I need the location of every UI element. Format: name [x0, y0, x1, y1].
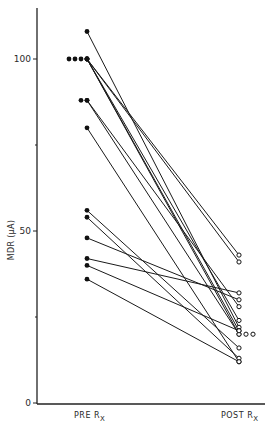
post-point	[237, 253, 241, 257]
post-point	[237, 305, 241, 309]
category-label-post-main: POST R	[221, 411, 253, 420]
pre-point-stacked	[73, 57, 78, 62]
subject-line	[87, 100, 239, 334]
post-point	[237, 360, 241, 364]
post-point	[237, 318, 241, 322]
subject-line	[87, 59, 239, 255]
pre-point	[85, 215, 90, 220]
category-label-pre-sub: X	[100, 415, 105, 423]
pre-point-stacked	[79, 98, 84, 103]
post-point	[237, 329, 241, 333]
post-point-stacked	[251, 332, 255, 336]
pre-point	[85, 263, 90, 268]
connector-lines	[87, 31, 239, 361]
pre-point-stacked	[67, 57, 72, 62]
y-tick-label: 0	[25, 398, 31, 408]
data-points	[67, 29, 256, 364]
subject-line	[87, 128, 239, 362]
subject-line	[87, 238, 239, 300]
mdr-pre-post-chart: 050100 MDR (μA) PRE RX POST RX	[0, 0, 278, 434]
pre-point	[85, 256, 90, 261]
pre-point	[85, 125, 90, 130]
category-label-post: POST RX	[221, 411, 258, 423]
subject-line	[87, 59, 239, 320]
post-point-stacked	[244, 332, 248, 336]
category-labels: PRE RX POST RX	[74, 411, 258, 423]
axes	[37, 8, 265, 404]
post-point	[237, 291, 241, 295]
pre-point	[85, 29, 90, 34]
category-label-pre: PRE RX	[74, 411, 105, 423]
pre-point	[85, 57, 90, 62]
category-label-post-sub: X	[253, 415, 258, 423]
y-axis-title: MDR (μA)	[7, 220, 16, 260]
pre-point	[85, 235, 90, 240]
post-point	[237, 260, 241, 264]
y-tick-label: 100	[14, 54, 31, 64]
y-tick-label: 50	[20, 226, 32, 236]
category-label-pre-main: PRE R	[74, 411, 100, 420]
post-point	[237, 346, 241, 350]
post-point	[237, 298, 241, 302]
pre-point	[85, 98, 90, 103]
y-ticks: 050100	[14, 54, 37, 408]
subject-line	[87, 31, 239, 327]
pre-point	[85, 208, 90, 213]
pre-point-stacked	[79, 57, 84, 62]
pre-point	[85, 277, 90, 282]
subject-line	[87, 59, 239, 334]
